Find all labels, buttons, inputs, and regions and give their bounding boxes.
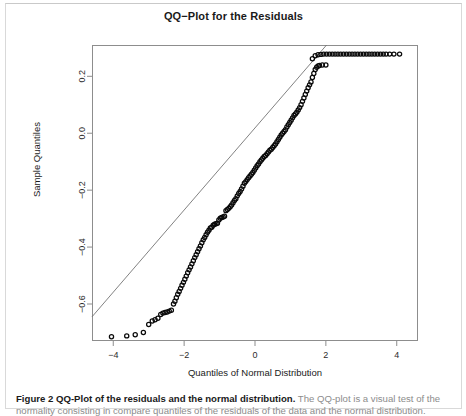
caption-line-2: normality consisting in compare quantile… bbox=[16, 405, 456, 416]
data-point bbox=[125, 334, 129, 338]
y-tick-label: −0.2 bbox=[77, 181, 87, 199]
figure-caption: Figure 2 QQ-Plot of the residuals and th… bbox=[16, 393, 456, 416]
reference-line bbox=[92, 45, 327, 317]
data-point bbox=[109, 335, 113, 339]
y-tick-label: 0.0 bbox=[77, 127, 87, 140]
y-tick-label: 0.2 bbox=[77, 70, 87, 83]
data-points bbox=[109, 52, 401, 339]
data-point bbox=[397, 52, 401, 56]
x-tick-label: 2 bbox=[323, 350, 328, 360]
qq-reference-line bbox=[92, 45, 327, 317]
y-tick-label: −0.4 bbox=[77, 238, 87, 256]
y-tick-label: −0.6 bbox=[77, 295, 87, 313]
data-point bbox=[141, 330, 145, 334]
data-point bbox=[133, 333, 137, 337]
figure-area: QQ−Plot for the Residuals Sample Quantil… bbox=[6, 4, 461, 394]
caption-bold: Figure 2 QQ-Plot of the residuals and th… bbox=[16, 393, 295, 404]
x-tick-label: −4 bbox=[108, 350, 118, 360]
axis-ticks: −4−20240.20.0−0.2−0.4−0.6 bbox=[77, 70, 399, 360]
data-point bbox=[392, 52, 396, 56]
data-point bbox=[147, 322, 151, 326]
caption-rest: The QQ-plot is a visual test of the bbox=[295, 393, 440, 404]
x-tick-label: 4 bbox=[394, 350, 399, 360]
x-tick-label: 0 bbox=[252, 350, 257, 360]
qq-plot-canvas: −4−20240.20.0−0.2−0.4−0.6 bbox=[6, 4, 461, 394]
x-tick-label: −2 bbox=[179, 350, 189, 360]
